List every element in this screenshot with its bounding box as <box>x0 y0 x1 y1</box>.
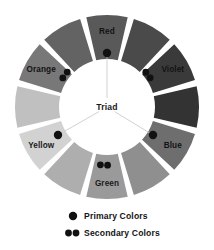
triad-line-to-yellow <box>58 112 99 136</box>
legend-label-primary: Primary Colors <box>84 211 148 221</box>
wheel-segment-yellow-orange[interactable] <box>15 86 60 127</box>
wheel-center-hub: Triad <box>96 102 118 112</box>
legend-label-secondary: Secondary Colors <box>84 228 160 238</box>
secondary-marker-green-dot-1 <box>104 162 111 169</box>
legend: Primary ColorsSecondary Colors <box>65 211 160 238</box>
triad-line-to-blue <box>115 112 153 135</box>
secondary-marker-green-dot-2 <box>97 161 104 168</box>
wheel-segment-green[interactable] <box>86 154 127 199</box>
primary-marker-yellow <box>54 131 62 139</box>
primary-marker-blue <box>149 131 157 139</box>
legend-dot-primary <box>69 212 77 220</box>
secondary-marker-orange-dot-1 <box>59 75 66 82</box>
legend-dot-secondary-1 <box>65 230 72 237</box>
center-label-triad: Triad <box>96 102 118 112</box>
color-wheel-diagram: Triad RedVioletBlueGreenYellowOrange Pri… <box>0 0 214 250</box>
secondary-marker-violet-dot-1 <box>142 69 149 76</box>
segment-label-blue: Blue <box>164 141 182 150</box>
segment-label-yellow: Yellow <box>28 141 55 150</box>
color-wheel-svg: Triad RedVioletBlueGreenYellowOrange Pri… <box>0 0 214 250</box>
segment-label-red: Red <box>99 27 115 36</box>
segment-label-green: Green <box>95 179 119 188</box>
secondary-marker-orange-dot-2 <box>64 69 71 76</box>
legend-dot-secondary-2 <box>73 230 80 237</box>
segment-label-orange: Orange <box>27 65 57 74</box>
wheel-segment-blue-violet[interactable] <box>154 86 199 127</box>
primary-marker-red <box>103 49 111 57</box>
segment-label-violet: Violet <box>161 65 184 74</box>
secondary-marker-violet-dot-2 <box>147 74 154 81</box>
